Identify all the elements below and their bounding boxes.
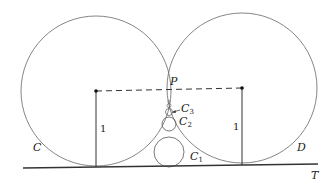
ford-circles-diagram: P C D T 1 1 C1 C2 C3	[0, 0, 332, 181]
label-c: C	[33, 141, 42, 154]
tangent-line-t	[23, 164, 318, 168]
circle-c1	[154, 137, 184, 167]
label-c3: C3	[181, 102, 194, 116]
label-radius-right: 1	[233, 121, 239, 132]
label-radius-left: 1	[100, 123, 106, 134]
dashed-center-line	[96, 88, 242, 91]
center-dot-c	[94, 89, 98, 93]
label-t: T	[311, 169, 320, 181]
label-c1: C1	[190, 150, 203, 164]
label-c2: C2	[179, 115, 192, 129]
center-dot-d	[240, 86, 244, 90]
circle-c2	[162, 117, 176, 131]
label-p: P	[169, 75, 178, 88]
label-d: D	[296, 141, 306, 154]
